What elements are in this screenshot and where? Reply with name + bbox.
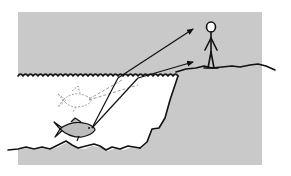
- refraction-diagram: Refraction diagram: observer on cliff se…: [0, 0, 291, 176]
- fish-eye: [88, 127, 90, 129]
- observer-head: [207, 22, 216, 32]
- diagram-svg: [0, 0, 291, 176]
